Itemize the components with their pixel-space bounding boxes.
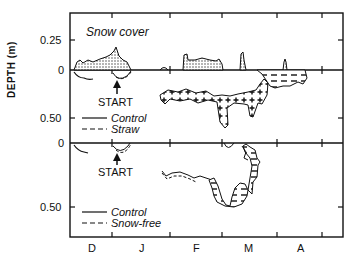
- legend-straw: Straw: [111, 124, 139, 135]
- snow-cover-spike-2: [283, 59, 287, 70]
- y-tick-0-25: 0.25: [40, 35, 61, 46]
- legend-snow-free: Snow-free: [111, 218, 161, 229]
- x-tick-f: F: [193, 243, 200, 254]
- y-tick-0-bottom: 0: [58, 138, 64, 149]
- x-tick-j: J: [139, 243, 145, 254]
- x-tick-m: M: [244, 243, 253, 254]
- y-axis-label: DEPTH (m): [6, 41, 17, 98]
- frost-control-line-bottom: [162, 171, 212, 180]
- start-label-top: START: [98, 97, 133, 108]
- snow-cover-annotation: Snow cover: [86, 26, 149, 38]
- start-arrow-top: [113, 80, 121, 94]
- start-label-bottom: START: [98, 167, 133, 178]
- snow-cover-area-1: [74, 47, 131, 70]
- snow-cover-area-2: [183, 54, 223, 70]
- y-tick-0-50-top: 0.50: [40, 113, 61, 124]
- start-arrow-bottom: [113, 153, 121, 165]
- x-tick-a: A: [297, 243, 304, 254]
- snow-cover-spike-1: [240, 52, 246, 70]
- x-tick-d: D: [88, 243, 96, 254]
- frost-snowfree-area: [209, 144, 260, 207]
- y-tick-0-50-bottom: 0.50: [40, 202, 61, 213]
- y-tick-0-top: 0: [58, 65, 64, 76]
- frost-control-vs-straw-area: [160, 79, 268, 128]
